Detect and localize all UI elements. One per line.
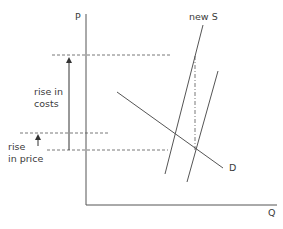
q-axis-label: Q xyxy=(268,207,275,219)
original-supply-curve xyxy=(187,71,218,182)
p-axis-label: P xyxy=(75,11,81,23)
rise-in-price-label-line2: in price xyxy=(8,153,43,165)
rise-in-costs-label-line1: rise in xyxy=(34,86,63,98)
demand-curve xyxy=(117,92,223,168)
new-supply-label: new S xyxy=(189,11,218,23)
rise-in-price-label-line1: rise xyxy=(8,141,25,153)
demand-label: D xyxy=(229,162,236,174)
new-supply-curve xyxy=(165,25,203,174)
supply-demand-diagram xyxy=(0,0,283,229)
rise-in-costs-label-line2: costs xyxy=(34,98,59,110)
